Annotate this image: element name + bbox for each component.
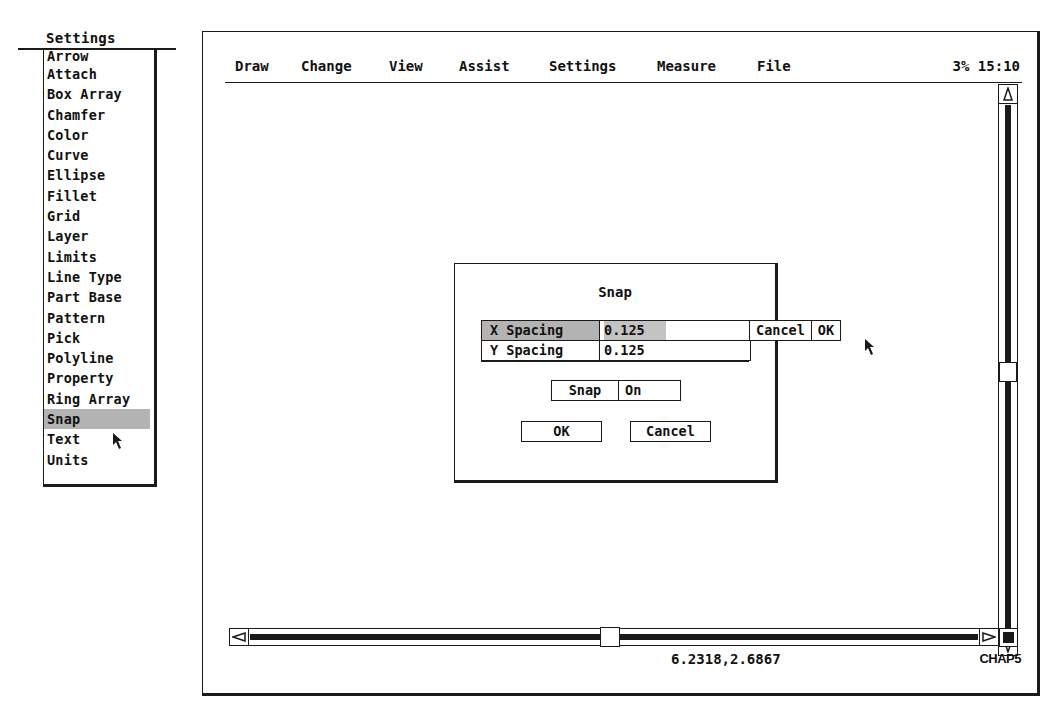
memory-percent: 3% (953, 58, 970, 74)
settings-menu-item-chamfer[interactable]: Chamfer (44, 105, 154, 125)
arrow-left-icon (232, 632, 246, 642)
snap-toggle[interactable]: Snap On (551, 380, 681, 401)
settings-menu-item-limits[interactable]: Limits (44, 247, 154, 267)
settings-menu-item-attach[interactable]: Attach (44, 64, 154, 84)
settings-menu-item-line-type[interactable]: Line Type (44, 267, 154, 287)
drawing-name: CHAP5 (979, 651, 1021, 666)
settings-menu-item-ring-array[interactable]: Ring Array (44, 389, 154, 409)
scroll-left-button[interactable] (230, 629, 249, 645)
settings-menu-item-curve[interactable]: Curve (44, 145, 154, 165)
y-spacing-label: Y Spacing (482, 341, 600, 360)
x-spacing-input[interactable]: 0.125 (600, 321, 750, 340)
menu-settings[interactable]: Settings (549, 58, 616, 74)
cursor-coordinates: 6.2318,2.6867 (671, 651, 781, 667)
x-spacing-label: X Spacing (482, 321, 600, 340)
settings-menu-item-polyline[interactable]: Polyline (44, 348, 154, 368)
menu-change[interactable]: Change (301, 58, 352, 74)
clock: 15:10 (978, 58, 1020, 74)
field-ok-button[interactable]: OK (811, 321, 840, 340)
menu-assist[interactable]: Assist (459, 58, 510, 74)
menu-bar: Draw Change View Assist Settings Measure… (225, 58, 1022, 83)
settings-menu-list: ArrowAttachBox ArrayChamferColorCurveEll… (44, 50, 154, 470)
dialog-title: Snap (455, 284, 775, 300)
settings-menu-item-box-array[interactable]: Box Array (44, 84, 154, 104)
y-spacing-row[interactable]: Y Spacing 0.125 (482, 341, 751, 361)
scroll-right-button[interactable] (979, 629, 998, 645)
arrow-up-icon (1003, 87, 1013, 101)
x-spacing-value[interactable]: 0.125 (604, 321, 666, 340)
vertical-scrollbar[interactable] (998, 84, 1018, 656)
horizontal-scrollbar[interactable] (229, 628, 999, 646)
ok-button[interactable]: OK (521, 421, 602, 442)
cancel-button[interactable]: Cancel (630, 421, 711, 442)
square-icon (1003, 632, 1014, 643)
settings-menu-item-pick[interactable]: Pick (44, 328, 154, 348)
menu-file[interactable]: File (757, 58, 791, 74)
field-edit-buttons: Cancel OK (749, 320, 841, 341)
settings-menu-item-ellipse[interactable]: Ellipse (44, 165, 154, 185)
settings-menu-item-pattern[interactable]: Pattern (44, 308, 154, 328)
x-spacing-row[interactable]: X Spacing 0.125 (482, 321, 750, 341)
mouse-cursor-icon (112, 432, 124, 450)
settings-menu-item-grid[interactable]: Grid (44, 206, 154, 226)
menu-view[interactable]: View (389, 58, 423, 74)
vertical-scroll-thumb[interactable] (999, 362, 1017, 382)
snap-toggle-label: Snap (552, 381, 619, 400)
settings-menu-item-arrow[interactable]: Arrow (44, 50, 154, 64)
status-indicator: 3% 15:10 (953, 58, 1020, 74)
settings-menu-item-units[interactable]: Units (44, 450, 154, 470)
menu-draw[interactable]: Draw (235, 58, 269, 74)
menu-measure[interactable]: Measure (657, 58, 716, 74)
settings-menu-item-color[interactable]: Color (44, 125, 154, 145)
arrow-right-icon (982, 632, 996, 642)
field-cancel-button[interactable]: Cancel (750, 321, 811, 340)
y-spacing-input[interactable]: 0.125 (600, 341, 750, 360)
settings-menu-item-part-base[interactable]: Part Base (44, 287, 154, 307)
horizontal-scroll-thumb[interactable] (600, 627, 620, 647)
snap-toggle-value[interactable]: On (619, 381, 641, 400)
snap-dialog: Snap X Spacing 0.125 Y Spacing 0.125 Can… (454, 263, 778, 483)
settings-menu: ArrowAttachBox ArrayChamferColorCurveEll… (43, 49, 157, 487)
scroll-up-button[interactable] (999, 85, 1017, 104)
settings-menu-title: Settings (46, 30, 116, 46)
settings-menu-item-fillet[interactable]: Fillet (44, 186, 154, 206)
settings-menu-item-text[interactable]: Text (44, 429, 154, 449)
mouse-cursor-icon (864, 338, 876, 356)
settings-menu-item-layer[interactable]: Layer (44, 226, 154, 246)
spacing-fields: X Spacing 0.125 Y Spacing 0.125 (481, 320, 749, 362)
scroll-corner-button[interactable] (999, 628, 1018, 647)
settings-menu-item-snap[interactable]: Snap (44, 409, 150, 429)
settings-menu-item-property[interactable]: Property (44, 368, 154, 388)
